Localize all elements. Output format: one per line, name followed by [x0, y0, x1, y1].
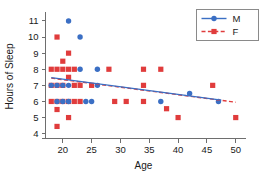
legend-label-f: F [233, 26, 239, 37]
data-point-f [54, 34, 59, 39]
x-tick-label: 25 [86, 144, 97, 155]
legend-marker-f [211, 29, 216, 34]
data-point-m [54, 99, 59, 104]
data-point-f [72, 67, 77, 72]
y-tick-label: 11 [29, 15, 39, 26]
x-axis-ticks: 20253035404550 [58, 139, 242, 155]
data-point-f [112, 99, 117, 104]
data-point-f [54, 124, 59, 129]
data-point-f [141, 83, 146, 88]
data-point-f [66, 51, 71, 56]
data-point-m [60, 99, 65, 104]
y-tick-label: 5 [33, 112, 38, 123]
y-tick-label: 4 [33, 128, 38, 139]
legend: MF [197, 10, 259, 41]
data-point-f [141, 67, 146, 72]
scatter-plot-figure: 4567891011 20253035404550 Age Hours of S… [0, 0, 267, 184]
data-point-f [158, 67, 163, 72]
x-tick-label: 50 [230, 144, 241, 155]
trend-line-m [51, 78, 221, 101]
plot-canvas: 4567891011 20253035404550 Age Hours of S… [0, 0, 267, 184]
y-tick-label: 8 [33, 64, 38, 75]
data-point-m [54, 83, 59, 88]
data-point-f [77, 99, 82, 104]
data-point-f [164, 106, 169, 111]
data-point-m [77, 67, 82, 72]
data-point-f [54, 107, 59, 112]
x-tick-label: 45 [202, 144, 213, 155]
data-point-f [77, 83, 82, 88]
data-point-f [54, 67, 59, 72]
data-point-m [95, 67, 100, 72]
data-point-m [60, 83, 65, 88]
x-tick-label: 35 [144, 144, 155, 155]
data-point-f [49, 67, 54, 72]
x-tick-label: 30 [115, 144, 126, 155]
data-point-m [66, 18, 71, 23]
data-point-f [60, 67, 65, 72]
y-axis-title: Hours of Sleep [4, 43, 15, 110]
data-point-f [72, 99, 77, 104]
data-point-f [66, 115, 71, 120]
legend-border [197, 10, 259, 41]
data-point-m [66, 83, 71, 88]
data-point-f [233, 115, 238, 120]
data-point-f [66, 67, 71, 72]
data-point-f [175, 115, 180, 120]
data-point-m [77, 34, 82, 39]
data-point-m [89, 99, 94, 104]
data-point-f [72, 83, 77, 88]
legend-label-m: M [233, 13, 241, 24]
legend-marker-m [211, 16, 216, 21]
data-point-m [83, 99, 88, 104]
x-tick-label: 40 [173, 144, 184, 155]
y-tick-label: 10 [28, 31, 39, 42]
y-tick-label: 9 [33, 48, 38, 59]
data-point-f [141, 99, 146, 104]
y-tick-label: 6 [33, 96, 38, 107]
trend-lines [51, 78, 235, 103]
data-point-f [210, 83, 215, 88]
x-axis-title: Age [135, 160, 153, 171]
x-tick-label: 20 [58, 144, 69, 155]
data-point-f [49, 99, 54, 104]
data-point-m [158, 99, 163, 104]
series-m-points [49, 18, 222, 104]
data-point-f [60, 59, 65, 64]
data-point-m [66, 99, 71, 104]
data-point-m [49, 83, 54, 88]
data-point-f [106, 67, 111, 72]
y-axis-ticks: 4567891011 [28, 15, 46, 139]
y-tick-label: 7 [33, 80, 38, 91]
data-point-f [124, 99, 129, 104]
